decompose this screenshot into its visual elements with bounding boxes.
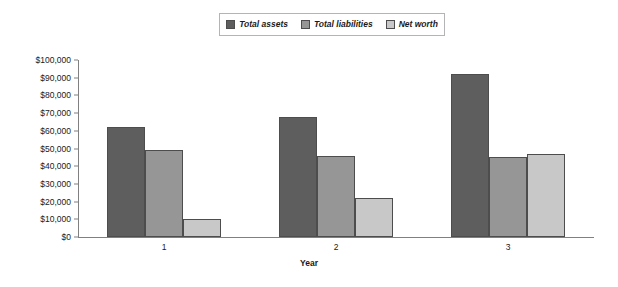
chart-legend: Total assets Total liabilities Net worth [219, 13, 445, 36]
legend-label-net-worth: Net worth [399, 20, 438, 29]
bar-total-liabilities[interactable] [317, 156, 355, 237]
bar-net-worth[interactable] [527, 154, 565, 237]
bar-group [78, 60, 250, 237]
legend-swatch-net-worth [386, 20, 395, 29]
x-axis-line [78, 237, 594, 238]
bar-chart: Total assets Total liabilities Net worth… [0, 0, 618, 287]
x-axis-tick-label: 3 [506, 243, 511, 252]
x-axis-tick-label: 1 [162, 243, 167, 252]
x-axis-tick-label: 2 [334, 243, 339, 252]
y-axis-tick-label: $70,000 [40, 109, 78, 118]
x-axis-title: Year [0, 259, 618, 268]
legend-swatch-total-assets [226, 20, 235, 29]
y-axis-tick-label: $30,000 [40, 180, 78, 189]
y-axis-tick-label: $80,000 [40, 91, 78, 100]
bar-net-worth[interactable] [183, 219, 221, 237]
y-axis-tick-label: $100,000 [36, 56, 78, 65]
y-axis-tick-label: $60,000 [40, 127, 78, 136]
bar-group-bars [250, 60, 422, 237]
bar-net-worth[interactable] [355, 198, 393, 237]
plot-area: $100,000$90,000$80,000$70,000$60,000$50,… [78, 60, 594, 237]
bar-group-bars [78, 60, 250, 237]
legend-item-total-liabilities: Total liabilities [301, 20, 373, 29]
bar-groups [78, 60, 594, 237]
bar-total-assets[interactable] [107, 127, 145, 237]
bar-total-assets[interactable] [279, 117, 317, 237]
legend-swatch-total-liabilities [301, 20, 310, 29]
y-axis-tick-label: $10,000 [40, 215, 78, 224]
bar-group-bars [422, 60, 594, 237]
legend-item-total-assets: Total assets [226, 20, 288, 29]
legend-label-total-liabilities: Total liabilities [314, 20, 373, 29]
bar-group [250, 60, 422, 237]
bar-total-liabilities[interactable] [145, 150, 183, 237]
y-axis-tick-label: $20,000 [40, 197, 78, 206]
bar-total-assets[interactable] [451, 74, 489, 237]
bar-total-liabilities[interactable] [489, 157, 527, 237]
bar-group [422, 60, 594, 237]
y-axis-tick-label: $50,000 [40, 144, 78, 153]
legend-item-net-worth: Net worth [386, 20, 438, 29]
legend-label-total-assets: Total assets [239, 20, 288, 29]
y-axis-tick-label: $40,000 [40, 162, 78, 171]
y-axis-tick-label: $90,000 [40, 73, 78, 82]
